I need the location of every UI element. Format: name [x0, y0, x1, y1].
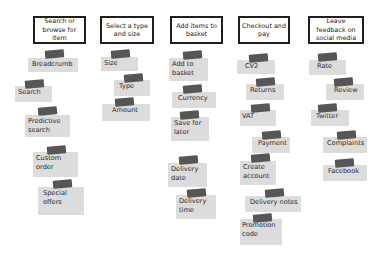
card-label: Delivery time: [179, 197, 206, 214]
tape-decoration: [334, 77, 354, 87]
card-save-for-later: Save for later: [171, 117, 209, 141]
card-delivery-notes: Delivery notes: [245, 196, 301, 212]
card-add-to-basket: Add to basket: [169, 58, 208, 81]
card-label: Review: [334, 86, 358, 94]
card-label: Rate: [317, 62, 332, 70]
card-label: Add to basket: [172, 60, 194, 77]
card-label: Save for later: [174, 119, 201, 136]
tape-decoration: [124, 73, 144, 83]
card-breadcrumb: Breadcrumb: [28, 58, 78, 72]
card-label: Create account: [243, 163, 269, 180]
tape-decoration: [38, 106, 58, 116]
card-review: Review: [326, 84, 364, 100]
card-amount: Amount: [102, 104, 150, 121]
tape-decoration: [337, 130, 357, 140]
card-label: VAT: [242, 112, 254, 120]
card-search: Search: [15, 86, 52, 102]
tape-decoration: [183, 50, 203, 60]
column-header-checkout: Checkout and pay: [238, 16, 290, 44]
tape-decoration: [256, 77, 276, 87]
tape-decoration: [47, 145, 67, 155]
tape-decoration: [180, 110, 200, 120]
tape-decoration: [25, 79, 45, 89]
card-label: Returns: [250, 86, 275, 94]
tape-decoration: [253, 213, 273, 223]
tape-decoration: [53, 179, 73, 189]
tape-decoration: [183, 84, 203, 94]
card-label: CV2: [245, 62, 258, 70]
card-rate: Rate: [309, 60, 346, 75]
tape-decoration: [262, 130, 282, 140]
card-label: Custom order: [36, 154, 61, 171]
column-header-select: Select a type and size: [100, 16, 154, 44]
card-label: Payment: [258, 139, 287, 147]
card-size: Size: [101, 57, 138, 71]
tape-decoration: [187, 188, 207, 198]
column-header-search: Search or browse for item: [33, 16, 86, 44]
tape-decoration: [318, 103, 338, 113]
card-label: Complaints: [327, 139, 364, 147]
tape-decoration: [115, 97, 135, 107]
card-label: Currency: [178, 94, 208, 102]
card-vat: VAT: [240, 110, 276, 126]
tape-decoration: [45, 49, 65, 59]
card-label: Facebook: [328, 167, 359, 175]
card-create-account: Create account: [240, 161, 276, 185]
card-label: Breadcrumb: [32, 60, 73, 68]
card-twitter: Twitter: [311, 110, 349, 126]
tape-decoration: [335, 158, 355, 168]
card-predictive-search: Predictive search: [25, 115, 70, 137]
card-payment: Payment: [252, 137, 290, 153]
header-label: Add items to basket: [174, 22, 219, 39]
card-custom-order: Custom order: [33, 152, 78, 177]
tape-decoration: [179, 155, 199, 165]
card-delivery-time: Delivery time: [176, 195, 216, 219]
tape-decoration: [251, 103, 271, 113]
tape-decoration: [249, 53, 269, 63]
header-label: Checkout and pay: [242, 22, 286, 39]
tape-decoration: [265, 188, 285, 198]
header-label: Leave feedback on social media: [312, 17, 360, 42]
card-promotion-code: Promotion code: [240, 219, 282, 245]
card-label: Search: [18, 88, 41, 96]
column-header-feedback: Leave feedback on social media: [308, 16, 364, 44]
card-special-offers: Special offers: [38, 187, 84, 215]
card-label: Predictive search: [28, 117, 61, 134]
card-label: Special offers: [43, 189, 67, 206]
card-label: Promotion code: [242, 221, 276, 238]
header-label: Select a type and size: [104, 22, 150, 39]
card-label: Type: [119, 82, 134, 90]
tape-decoration: [318, 52, 338, 62]
card-delivery-date: Delivery date: [168, 163, 207, 187]
tape-decoration: [251, 153, 271, 163]
card-label: Delivery date: [171, 165, 198, 182]
card-type: Type: [114, 80, 150, 96]
card-label: Delivery notes: [250, 198, 298, 206]
card-label: Twitter: [316, 112, 338, 120]
card-label: Size: [104, 59, 118, 67]
header-label: Search or browse for item: [37, 17, 82, 42]
column-header-add: Add items to basket: [170, 16, 223, 44]
card-complaints: Complaints: [323, 137, 367, 153]
card-facebook: Facebook: [323, 165, 367, 181]
tape-decoration: [111, 49, 131, 59]
card-label: Amount: [112, 106, 138, 114]
card-returns: Returns: [246, 84, 284, 100]
card-currency: Currency: [172, 92, 216, 108]
